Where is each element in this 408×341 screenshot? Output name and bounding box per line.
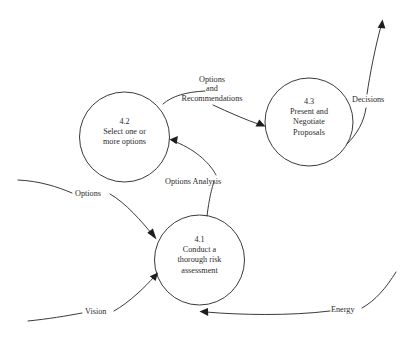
- flow-label-decisions-text: Decisions: [352, 95, 402, 105]
- flow-label-vision: Vision: [85, 307, 119, 317]
- flow-label-options-analysis: Options Analysis: [165, 177, 245, 187]
- process-circle-4-3[interactable]: [265, 78, 353, 166]
- flow-label-energy: Energy: [331, 305, 367, 315]
- flow-path-options-right: [110, 194, 152, 234]
- process-circle-4-1[interactable]: [155, 215, 245, 305]
- process-circle-4-2[interactable]: [80, 92, 170, 182]
- flow-path-options-left: [18, 180, 72, 193]
- flow-label-decisions: Decisions: [352, 95, 402, 105]
- flow-label-options-text: Options: [75, 189, 115, 199]
- flow-path-vision-right: [114, 277, 154, 311]
- flow-label-options-recommendations-line-1: Options: [157, 75, 267, 84]
- diagram-svg: [0, 0, 408, 341]
- flow-path-energy-left: [206, 311, 330, 315]
- flow-label-vision-text: Vision: [85, 307, 119, 317]
- flow-label-options: Options: [75, 189, 115, 199]
- flow-label-energy-text: Energy: [331, 305, 367, 315]
- flow-path-decisions-upper: [367, 26, 381, 94]
- arrowhead-options-analysis: [170, 136, 178, 144]
- flow-label-options-analysis-text: Options Analysis: [165, 177, 245, 187]
- flow-label-options-recommendations-line-2: and: [157, 84, 267, 93]
- flow-label-options-recommendations-line-3: Recommendations: [157, 94, 267, 103]
- flow-path-energy-right: [362, 272, 396, 308]
- arrowhead-energy: [200, 308, 209, 316]
- flow-path-vision-left: [28, 313, 82, 321]
- arrowhead-options-recommendations: [256, 120, 266, 127]
- flow-label-options-recommendations: Options and Recommendations: [157, 75, 267, 103]
- data-flow-diagram-canvas: 4.2 Select one or more options 4.3 Prese…: [0, 0, 408, 341]
- flow-path-options-recommendations-right: [213, 105, 261, 125]
- arrowhead-decisions: [378, 20, 386, 29]
- flow-path-options-analysis-upper: [176, 142, 216, 175]
